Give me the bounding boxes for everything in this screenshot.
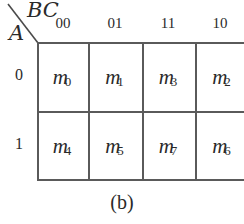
column-header-11: 11 [142,15,194,32]
column-header-10: 10 [194,15,244,32]
minterm-label: m2 [212,65,234,90]
row-variable-label: A [9,21,24,45]
kmap-cell-m5: m5 [90,113,144,181]
row-header-0: 0 [8,66,30,84]
kmap-cell-m2: m2 [197,44,244,113]
kmap-cell-m1: m1 [90,44,144,113]
minterm-label: m6 [212,134,234,159]
kmap-cell-m0: m0 [39,44,90,113]
row-header-1: 1 [8,135,30,153]
karnaugh-map-grid: m0 m1 m3 m2 m4 m5 m7 m6 [37,42,244,181]
kmap-cell-m6: m6 [197,113,244,181]
figure-caption: (b) [0,191,244,214]
minterm-label: m3 [159,65,181,90]
minterm-label: m1 [105,65,127,90]
minterm-label: m0 [53,65,75,90]
column-header-01: 01 [89,15,141,32]
minterm-label: m5 [105,134,127,159]
kmap-cell-m7: m7 [144,113,197,181]
kmap-cell-m3: m3 [144,44,197,113]
kmap-cell-m4: m4 [39,113,90,181]
minterm-label: m4 [53,134,75,159]
column-header-00: 00 [37,15,89,32]
minterm-label: m7 [159,134,181,159]
